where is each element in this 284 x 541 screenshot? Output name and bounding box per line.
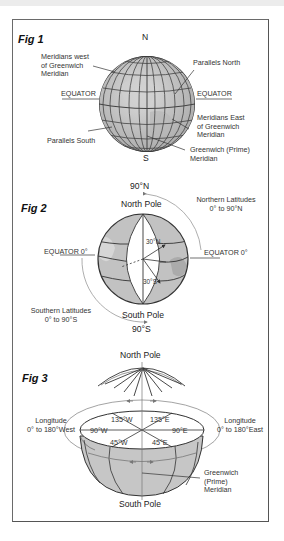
label-line: Meridian [190,155,250,164]
fig2-30n-label: 30°N [146,238,160,247]
fig1-meridians-west-label: Meridians west of Greenwich Meridian [41,53,89,79]
fig3-45e-label: 45°E [152,439,168,448]
fig2-equator-right-label: EQUATOR 0° [204,249,248,258]
fig3-45w-label: 45°W [110,439,128,448]
fig2-title: Fig 2 [21,202,47,214]
fig3-greenwich-label: Greenwich (Prime) Meridian [204,469,238,495]
fig1-equator-left-label: EQUATOR [61,90,96,99]
fig2-southern-latitudes-label: Southern Latitudes 0° to 90°S [24,307,98,324]
fig2-south-pole-label: South Pole [122,310,164,320]
fig1-title: Fig 1 [18,33,44,45]
fig3-north-pole-label: North Pole [120,350,161,360]
fig1-parallels-south-label: Parallels South [47,137,95,146]
fig2-globe [60,194,220,322]
fig2-90n-label: 90°N [130,181,149,191]
diagram-graphics [0,0,284,541]
fig3-south-pole-label: South Pole [119,499,161,509]
label-line: 0° to 90°N [186,205,266,214]
fig1-south-label: S [143,153,149,163]
fig2-northern-latitudes-label: Northern Latitudes 0° to 90°N [186,196,266,213]
fig3-hemispheres [64,362,220,500]
fig1-north-label: N [142,32,148,42]
fig3-135e-label: 135°E [150,416,170,425]
label-line: 0° to 90°S [24,316,98,325]
fig2-90s-label: 90°S [132,324,151,334]
fig3-longitude-west-label: Longitude 0° to 180°West [20,417,82,434]
label-line: 0° to 180°West [20,426,82,435]
fig3-90e-label: 90°E [172,427,188,436]
label-line: Meridian [41,70,89,79]
fig2-north-pole-label: North Pole [121,199,162,209]
fig1-equator-right-label: EQUATOR [197,90,232,99]
fig3-135w-label: 135°W [111,416,133,425]
fig1-greenwich-label: Greenwich (Prime) Meridian [190,146,250,163]
fig3-title: Fig 3 [22,372,48,384]
label-line: Meridian [204,486,238,495]
fig3-longitude-east-label: Longitude 0° to 180°East [208,417,272,434]
fig3-90w-label: 90°W [90,427,108,436]
fig2-equator-left-label: EQUATOR 0° [44,248,88,257]
label-line: Meridian [197,131,245,140]
fig2-30s-label: 30°S [143,278,157,287]
label-line: 0° to 180°East [208,426,272,435]
fig1-meridians-east-label: Meridians East of Greenwich Meridian [197,114,245,140]
fig1-globe [99,56,195,152]
fig1-parallels-north-label: Parallels North [193,59,240,68]
